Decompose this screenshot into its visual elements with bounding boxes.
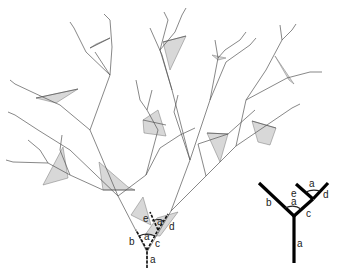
schematic-label-right-branch: c (306, 208, 311, 219)
label-sub-right: d (169, 221, 175, 232)
schematic-label-angle-upper: a (309, 178, 315, 189)
label-sub-left: e (143, 213, 149, 224)
schematic-label-sub-right: d (323, 189, 329, 200)
fractal-tree-figure: a b c a e a d a b c a e a d (0, 0, 341, 279)
label-angle-lower: a (144, 231, 150, 242)
fractal-tree: a b c a e a d (6, 8, 322, 268)
label-angle-upper: a (157, 216, 163, 227)
branching-schematic: a b c a e a d (259, 178, 329, 263)
label-left-branch: b (129, 236, 135, 247)
label-right-branch: c (155, 238, 160, 249)
schematic-label-trunk: a (297, 238, 303, 249)
label-trunk: a (150, 254, 156, 265)
schematic-label-left-branch: b (266, 197, 272, 208)
schematic-label-sub-left: e (291, 188, 297, 199)
